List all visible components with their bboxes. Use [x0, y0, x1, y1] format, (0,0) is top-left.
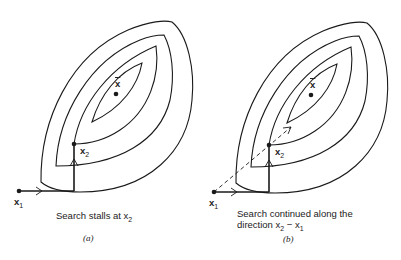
x1-point — [212, 190, 217, 195]
contour-lines — [41, 21, 193, 192]
x2-point — [72, 142, 77, 147]
caption-b-line1: Search continued along the — [237, 208, 353, 219]
optimum-label-a: x — [115, 78, 120, 89]
x1-label-b: x1 — [209, 197, 218, 210]
panel-label-a: (a) — [83, 233, 94, 243]
panel-b — [212, 22, 388, 196]
panel-label-b: (b) — [283, 234, 294, 244]
x1-label-a: x1 — [14, 196, 23, 209]
contour-lines — [236, 22, 388, 193]
optimum-point — [309, 93, 314, 98]
x1-point — [17, 189, 22, 194]
panel-a — [17, 21, 193, 195]
caption-b-line2: direction x2 − x1 — [237, 219, 304, 234]
x2-label-b: x2 — [275, 146, 284, 159]
x2-point — [267, 143, 272, 148]
optimum-point — [114, 92, 119, 97]
optimum-label-b: x — [310, 79, 315, 90]
caption-a: Search stalls at x2 — [56, 210, 132, 225]
x2-label-a: x2 — [80, 145, 89, 158]
pattern-move-dashed-line — [214, 127, 291, 192]
